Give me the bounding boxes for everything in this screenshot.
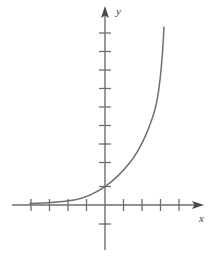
plot-canvas: y x (0, 0, 221, 269)
exponential-graph-figure: y x (0, 0, 221, 269)
exponential-curve (30, 27, 164, 204)
y-axis-label: y (115, 5, 121, 17)
x-axis-label: x (198, 212, 204, 224)
